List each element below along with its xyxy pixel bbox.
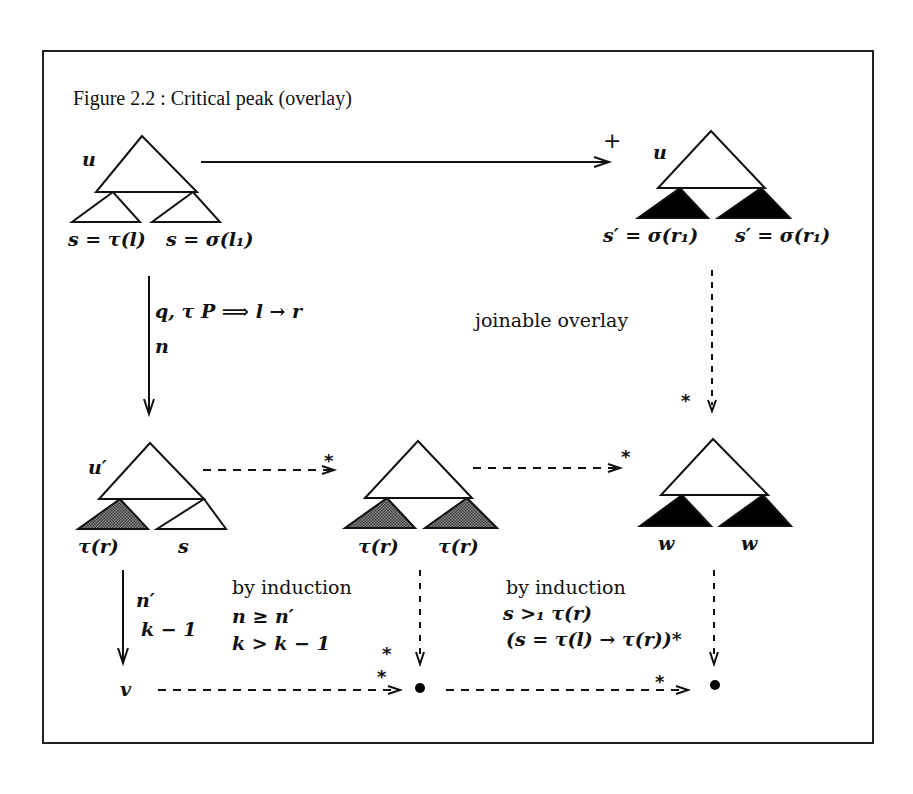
annotation-star-bottom-left: *: [377, 668, 386, 686]
label-s-mid-left: s: [178, 537, 189, 556]
arrow-lower-left-vertical: [118, 570, 128, 663]
annotation-star-bottom-right: *: [655, 673, 664, 691]
label-by-induction-left: by induction: [232, 578, 352, 597]
label-s-prime-right: s′ = σ(r₁): [735, 226, 830, 245]
label-n: n: [155, 337, 169, 356]
arrow-bottom-center-to-right: [446, 686, 688, 694]
label-s-tau-l: s = τ(l): [68, 230, 146, 249]
annotation-plus: +: [603, 130, 621, 152]
arrow-left-vertical: [144, 276, 154, 414]
figure-title: Figure 2.2 : Critical peak (overlay): [73, 88, 352, 108]
label-s-gt1-tau-r: s >₁ τ(r): [503, 604, 592, 623]
node-bottom-center: [415, 683, 425, 693]
tree-mid-right: [640, 439, 791, 526]
label-tau-r-mid-center-right: τ(r): [438, 537, 479, 556]
arrow-mid-left-to-center: [203, 466, 334, 474]
arrow-mid-center-to-right: [473, 464, 620, 472]
arrow-lower-center-vertical: [416, 570, 424, 664]
label-root-u-top-left: u: [82, 150, 96, 169]
label-root-u-prime: u′: [88, 458, 107, 477]
label-s-sigma-l1: s = σ(l₁): [166, 230, 253, 249]
arrow-top-horizontal: [201, 157, 609, 167]
annotation-star-mid-right: *: [621, 448, 630, 466]
label-w-right: w: [741, 534, 757, 553]
node-bottom-right: [710, 680, 720, 690]
label-k-gt-k-minus-1: k > k − 1: [232, 634, 330, 653]
label-tau-r-mid-center-left: τ(r): [358, 537, 399, 556]
label-joinable-overlay: joinable overlay: [475, 311, 628, 330]
annotation-star-mid-left: *: [324, 452, 333, 470]
critical-peak-diagram: [0, 0, 913, 794]
label-n-geq-n-prime: n ≥ n′: [232, 607, 294, 626]
label-v: v: [120, 680, 131, 699]
label-q-tau-p-implies: q, τ P ⟹ l → r: [155, 302, 302, 321]
label-root-u-top-right: u: [653, 143, 667, 162]
label-s-prime-left: s′ = σ(r₁): [603, 226, 698, 245]
label-w-left: w: [658, 534, 674, 553]
label-s-tau-l-to-tau-r-star: (s = τ(l) → τ(r))*: [506, 630, 682, 649]
label-k-minus-1: k − 1: [141, 620, 197, 639]
tree-mid-center: [345, 441, 497, 528]
arrow-bottom-left-to-center: [158, 686, 400, 694]
label-tau-r-mid-left: τ(r): [78, 537, 119, 556]
label-by-induction-right: by induction: [506, 578, 626, 597]
arrow-right-vertical-dashed: [708, 270, 716, 411]
label-n-prime: n′: [136, 591, 155, 610]
annotation-star-lower-center-vertical: *: [382, 645, 391, 663]
arrow-lower-right-vertical: [710, 570, 718, 664]
annotation-star-right-vertical: *: [681, 392, 690, 410]
